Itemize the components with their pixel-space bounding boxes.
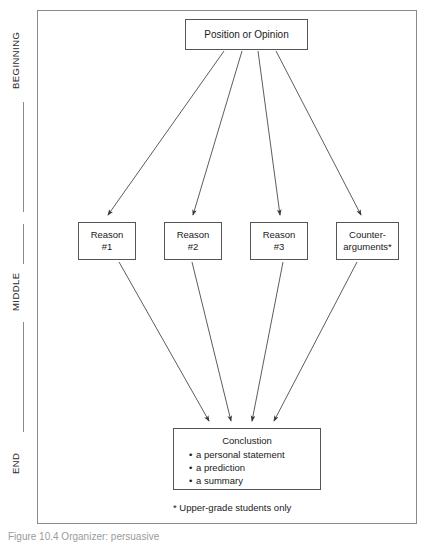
node-conclusion-label: Conclustion [174, 435, 320, 447]
node-reason-2-line-1: Reason [177, 229, 210, 241]
node-counter-arguments[interactable]: Counter- arguments* [336, 222, 399, 260]
conclusion-bullet-item: a summary [196, 474, 320, 487]
stage-label-middle: MIDDLE [10, 268, 38, 316]
stage-rule-middle-lower [23, 322, 24, 432]
node-reason-3-line-1: Reason [263, 229, 296, 241]
conclusion-bullet-item: a personal statement [196, 448, 320, 461]
footnote-upper-grade: * Upper-grade students only [173, 502, 383, 514]
stage-rule-middle-upper [23, 224, 24, 264]
node-reason-1-line-2: #1 [102, 241, 113, 253]
stage-label-end: END [10, 448, 38, 478]
conclusion-bullet-item: a prediction [196, 461, 320, 474]
node-reason-3[interactable]: Reason #3 [250, 222, 308, 260]
conclusion-bullet-list: a personal statement a prediction a summ… [174, 448, 320, 487]
stage-label-beginning: BEGINNING [10, 24, 38, 96]
node-conclusion[interactable]: Conclustion a personal statement a predi… [173, 428, 321, 490]
figure-caption: Figure 10.4 Organizer: persuasive [8, 531, 428, 543]
node-position-or-opinion[interactable]: Position or Opinion [185, 19, 308, 50]
node-counter-line-2: arguments* [343, 241, 392, 253]
node-reason-2[interactable]: Reason #2 [164, 222, 222, 260]
stage-axis: BEGINNING MIDDLE END [10, 10, 38, 524]
node-reason-2-line-2: #2 [188, 241, 199, 253]
node-reason-1[interactable]: Reason #1 [78, 222, 136, 260]
node-reason-1-line-1: Reason [91, 229, 124, 241]
node-reason-3-line-2: #3 [274, 241, 285, 253]
node-counter-line-1: Counter- [349, 229, 386, 241]
node-position-label: Position or Opinion [204, 29, 289, 41]
stage-rule-beginning [23, 102, 24, 212]
